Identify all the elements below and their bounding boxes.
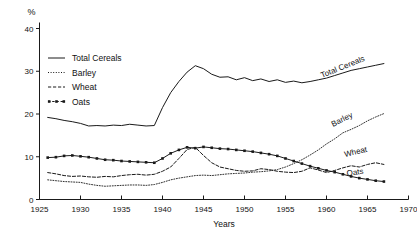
y-tick-label: 30 [25,67,34,76]
y-tick-label: 20 [25,110,34,119]
legend-label: Wheat [72,82,97,92]
oats-data-point [374,179,377,182]
oats-data-point [358,177,361,180]
y-axis-unit-label: % [27,7,35,17]
oats-data-point [284,157,287,160]
oats-data-point [260,152,263,155]
oats-data-point [276,155,279,158]
oats-data-point [219,147,222,150]
x-tick-label: 1925 [31,205,49,214]
x-tick-label: 1955 [277,205,295,214]
oats-data-point [251,150,254,153]
curve-label-barley: Barley [330,110,354,128]
oats-data-point [235,149,238,152]
oats-data-point [317,167,320,170]
legend-label: Oats [72,97,90,107]
oats-data-point [309,165,312,168]
axes-group: 010203040%192519301935194019451950195519… [25,7,417,229]
legend-item-barley: Barley [48,68,97,78]
x-tick-label: 1930 [72,205,90,214]
curve-label-oats: Oats [346,167,364,178]
oats-data-point [178,149,181,152]
legend-item-wheat: Wheat [48,82,97,92]
y-tick-label: 10 [25,153,34,162]
oats-data-point [161,157,164,160]
curve-label-total-cereals: Total Cereals [319,54,366,80]
legend-marker-square [55,100,58,103]
oats-data-point [120,160,123,163]
oats-data-point [71,154,74,157]
chart-container: 010203040%192519301935194019451950195519… [0,0,417,235]
oats-data-point [137,161,140,164]
x-tick-label: 1945 [195,205,213,214]
oats-data-point [186,146,189,149]
oats-data-point [342,173,345,176]
oats-data-point [268,153,271,156]
series-line-oats [48,147,384,182]
oats-data-point [87,156,90,159]
x-tick-label: 1960 [318,205,336,214]
oats-data-point [202,146,205,149]
oats-data-point [55,156,58,159]
oats-data-point [145,161,148,164]
oats-data-point [169,152,172,155]
legend-item-oats: Oats [48,97,90,107]
legend-label: Barley [72,68,97,78]
x-tick-label: 1935 [113,205,131,214]
oats-data-point [243,149,246,152]
legend-marker-square [63,100,66,103]
x-tick-label: 1950 [236,205,254,214]
oats-data-point [128,160,131,163]
x-axis-title: Years [213,219,234,229]
oats-data-point [63,155,66,158]
x-tick-label: 1965 [359,205,377,214]
legend-group: Total CerealsBarleyWheatOats [48,53,122,106]
oats-data-point [96,157,99,160]
oats-data-point [153,161,156,164]
line-chart-svg: 010203040%192519301935194019451950195519… [0,0,417,235]
legend-item-total-cereals: Total Cereals [48,53,122,63]
legend-marker-square [48,100,51,103]
oats-data-point [301,162,304,165]
y-tick-label: 40 [25,25,34,34]
oats-data-point [333,171,336,174]
oats-data-point [383,180,386,183]
x-tick-label: 1940 [154,205,172,214]
y-tick-label: 0 [29,196,34,205]
oats-data-point [79,155,82,158]
oats-data-point [194,147,197,150]
oats-data-point [46,156,49,159]
oats-data-point [292,160,295,163]
oats-data-point [104,158,107,161]
oats-data-point [325,169,328,172]
legend-label: Total Cereals [72,53,122,63]
oats-data-point [366,178,369,181]
x-tick-label: 1970 [400,205,417,214]
oats-data-point [227,148,230,151]
oats-data-point [112,159,115,162]
oats-data-point [210,146,213,149]
curve-label-wheat: Wheat [343,145,368,159]
